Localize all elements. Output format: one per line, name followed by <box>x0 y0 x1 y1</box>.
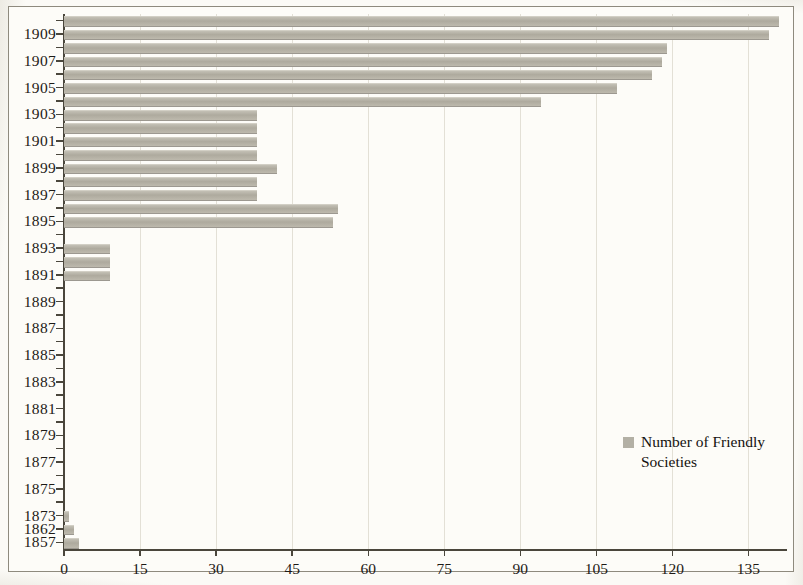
bar <box>64 16 779 27</box>
y-axis-tick <box>56 274 63 276</box>
y-axis-label: 1909 <box>6 25 56 43</box>
bar <box>64 110 257 121</box>
x-axis-tick <box>444 549 445 556</box>
x-axis-label: 105 <box>566 560 626 578</box>
y-axis-label: 1879 <box>6 426 56 444</box>
y-axis-label: 1893 <box>6 239 56 257</box>
bar <box>64 43 667 54</box>
x-axis-tick <box>291 549 292 556</box>
chart-plot-area: 1909190719051903190118991897189518931891… <box>0 0 803 585</box>
x-axis-tick <box>368 549 369 556</box>
chart-legend: Number of Friendly Societies <box>623 432 776 472</box>
bar <box>64 150 257 161</box>
y-axis-tick <box>56 154 63 156</box>
y-axis-tick <box>56 247 63 249</box>
bar <box>64 257 110 268</box>
y-axis-tick <box>56 328 63 330</box>
x-gridline <box>368 14 369 549</box>
x-axis-tick <box>63 549 64 556</box>
y-axis-tick <box>56 394 63 396</box>
y-axis-tick <box>56 341 63 343</box>
y-axis-tick <box>56 421 63 423</box>
x-axis-tick <box>748 549 749 556</box>
y-axis-tick <box>56 488 63 490</box>
bar <box>64 204 338 215</box>
x-gridline <box>292 14 293 549</box>
bar <box>64 177 257 188</box>
y-axis-tick <box>56 542 63 544</box>
bar <box>64 190 257 201</box>
legend-color-swatch <box>623 437 634 448</box>
y-axis-tick <box>56 20 63 22</box>
y-axis-tick <box>56 194 63 196</box>
y-axis-tick <box>56 287 63 289</box>
legend-series-label: Number of Friendly Societies <box>641 432 776 472</box>
y-axis-tick <box>56 167 63 169</box>
y-axis-tick <box>56 100 63 102</box>
x-axis-line <box>63 549 787 551</box>
x-axis-tick <box>596 549 597 556</box>
bar <box>64 271 110 282</box>
y-axis-label: 1899 <box>6 159 56 177</box>
y-axis-tick <box>56 408 63 410</box>
y-axis-tick <box>56 180 63 182</box>
x-gridline <box>140 14 141 549</box>
y-axis-label: 1895 <box>6 212 56 230</box>
x-axis-label: 0 <box>34 560 94 578</box>
figure-container: 1909190719051903190118991897189518931891… <box>0 0 803 585</box>
x-axis-tick <box>672 549 673 556</box>
bar <box>64 30 769 41</box>
bar <box>64 97 541 108</box>
x-axis-label: 45 <box>262 560 322 578</box>
y-axis-label: 1891 <box>6 266 56 284</box>
bar <box>64 57 662 68</box>
y-axis-label: 1877 <box>6 453 56 471</box>
y-axis-label: 1887 <box>6 319 56 337</box>
bar <box>64 164 277 175</box>
y-axis-tick <box>56 354 63 356</box>
y-axis-label: 1885 <box>6 346 56 364</box>
y-axis-label: 1905 <box>6 79 56 97</box>
x-axis-tick <box>215 549 216 556</box>
y-axis-tick <box>56 47 63 49</box>
bar <box>64 83 617 94</box>
x-axis-label: 75 <box>414 560 474 578</box>
y-axis-tick <box>56 448 63 450</box>
y-axis-tick <box>56 127 63 129</box>
y-axis-line <box>63 14 65 551</box>
y-axis-tick <box>56 87 63 89</box>
x-axis-label: 30 <box>186 560 246 578</box>
y-axis-tick <box>56 381 63 383</box>
y-axis-label: 1897 <box>6 186 56 204</box>
y-axis-tick <box>56 515 63 517</box>
y-axis-tick <box>56 73 63 75</box>
y-axis-tick <box>56 528 63 530</box>
bar <box>64 244 110 255</box>
x-gridline <box>596 14 597 549</box>
y-axis-tick <box>56 301 63 303</box>
bar <box>64 525 74 536</box>
x-gridline <box>444 14 445 549</box>
x-axis-label: 90 <box>490 560 550 578</box>
bar <box>64 137 257 148</box>
bar <box>64 538 79 549</box>
x-axis-label: 60 <box>338 560 398 578</box>
bar <box>64 123 257 134</box>
x-gridline <box>520 14 521 549</box>
y-axis-label: 1889 <box>6 293 56 311</box>
y-axis-tick <box>56 261 63 263</box>
y-axis-tick <box>56 140 63 142</box>
y-axis-tick <box>56 221 63 223</box>
y-axis-label: 1857 <box>6 533 56 551</box>
bar <box>64 70 652 81</box>
y-axis-tick <box>56 60 63 62</box>
y-axis-tick <box>56 207 63 209</box>
y-axis-label: 1901 <box>6 132 56 150</box>
x-axis-tick <box>520 549 521 556</box>
y-axis-label: 1875 <box>6 480 56 498</box>
y-axis-tick <box>56 368 63 370</box>
y-axis-label: 1881 <box>6 400 56 418</box>
y-axis-label: 1883 <box>6 373 56 391</box>
y-axis-label: 1907 <box>6 52 56 70</box>
bar <box>64 217 333 228</box>
